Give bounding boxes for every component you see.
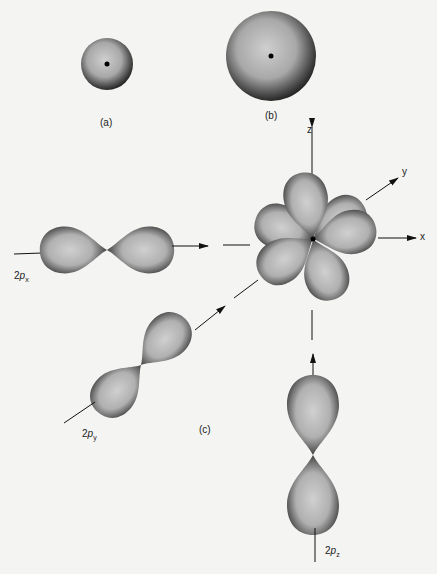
panel-label-c: (c) xyxy=(199,424,211,435)
orbital-label-2py: 2py xyxy=(82,428,97,439)
orbital-2px xyxy=(14,227,208,274)
panel-label-a: (a) xyxy=(100,117,112,128)
orbital-2s xyxy=(226,11,316,101)
orbital-2pz xyxy=(287,354,339,562)
orbital-subscript: x xyxy=(25,276,29,283)
orbital-subscript: y xyxy=(93,434,97,441)
orbital-1s xyxy=(81,38,133,90)
axis-label-x: x xyxy=(420,231,425,242)
orbital-figure xyxy=(0,0,437,574)
orbital-2py xyxy=(64,303,225,427)
orbital-2p-combined xyxy=(223,127,416,340)
orbital-label-2px: 2px xyxy=(14,270,29,281)
panel-label-b: (b) xyxy=(265,110,277,121)
axis-label-z: z xyxy=(307,124,312,135)
orbital-label-2pz: 2pz xyxy=(325,545,340,556)
axis-label-y: y xyxy=(402,166,407,177)
orbital-subscript: z xyxy=(336,551,340,558)
